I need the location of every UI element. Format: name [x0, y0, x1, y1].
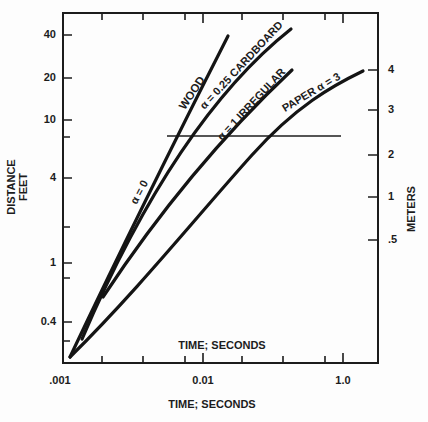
plot-frame: [63, 13, 378, 363]
x-axis-inner-title: TIME; SECONDS: [178, 339, 265, 351]
x-tick-001: .001: [49, 374, 70, 386]
x-tick-0-01: 0.01: [192, 374, 213, 386]
right-axis-ticks: [368, 70, 377, 240]
top-axis-ticks: [102, 14, 343, 23]
y-left-tick-0-4: 0.4: [18, 315, 56, 327]
y-right-tick-05: .5: [388, 233, 397, 245]
flame-spread-chart: 40 20 10 4 1 0.4 4 3 2 1 .5 .001 0.01 1.…: [0, 0, 428, 422]
y-left-axis-title-line1: DISTANCE: [5, 159, 17, 214]
paper-curve: [70, 71, 363, 357]
x-tick-1-0: 1.0: [335, 374, 350, 386]
y-left-tick-1: 1: [18, 256, 56, 268]
y-right-axis-title: METERS: [405, 186, 417, 232]
y-right-tick-1: 1: [388, 190, 394, 202]
bottom-axis-ticks: [102, 353, 343, 362]
plot-canvas: [0, 0, 428, 422]
y-right-tick-4: 4: [388, 63, 394, 75]
y-right-tick-3: 3: [388, 103, 394, 115]
y-left-axis-title: DISTANCE FEET: [5, 159, 29, 214]
y-left-tick-10: 10: [18, 113, 56, 125]
y-left-tick-40: 40: [18, 28, 56, 40]
y-left-axis-title-line2: FEET: [17, 159, 29, 214]
x-axis-title: TIME; SECONDS: [168, 398, 255, 410]
y-left-tick-20: 20: [18, 71, 56, 83]
y-right-tick-2: 2: [388, 148, 394, 160]
left-axis-ticks: [64, 35, 72, 341]
